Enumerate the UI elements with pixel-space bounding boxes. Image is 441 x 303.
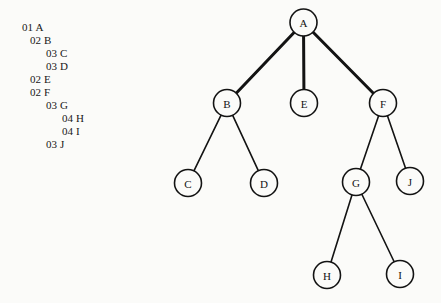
tree-node-label: H — [323, 270, 331, 282]
tree-node-i[interactable]: I — [387, 261, 414, 288]
tree-node-h[interactable]: H — [314, 262, 341, 289]
diagram-root: 01 A02 B03 C03 D02 E02 F03 G04 H04 I03 J… — [0, 0, 441, 303]
tree-node-label: F — [380, 98, 386, 110]
tree-node-j[interactable]: J — [397, 168, 424, 195]
tree-node-label: B — [223, 98, 230, 110]
tree-node-a[interactable]: A — [290, 9, 317, 36]
tree-diagram: ABEFCDGJHI — [0, 0, 441, 303]
tree-edges — [194, 32, 406, 263]
tree-edge-f-g — [360, 115, 379, 169]
tree-node-e[interactable]: E — [291, 90, 318, 117]
tree-svg: ABEFCDGJHI — [0, 0, 441, 303]
tree-node-label: G — [352, 177, 360, 189]
tree-edge-a-b — [236, 32, 295, 94]
tree-node-f[interactable]: F — [370, 90, 397, 117]
tree-node-label: C — [184, 178, 191, 190]
tree-edge-a-f — [313, 32, 374, 94]
tree-node-label: A — [300, 17, 308, 29]
tree-node-b[interactable]: B — [214, 90, 241, 117]
tree-node-label: I — [398, 269, 402, 281]
tree-node-label: J — [408, 176, 413, 188]
tree-node-c[interactable]: C — [175, 170, 202, 197]
tree-edge-g-i — [362, 194, 395, 263]
tree-edge-b-d — [232, 115, 258, 171]
tree-node-g[interactable]: G — [343, 169, 370, 196]
tree-edge-f-j — [387, 115, 405, 168]
tree-edge-b-c — [194, 115, 222, 172]
tree-edge-g-h — [331, 194, 352, 262]
tree-node-label: E — [301, 98, 308, 110]
tree-node-label: D — [260, 178, 268, 190]
tree-node-d[interactable]: D — [251, 170, 278, 197]
